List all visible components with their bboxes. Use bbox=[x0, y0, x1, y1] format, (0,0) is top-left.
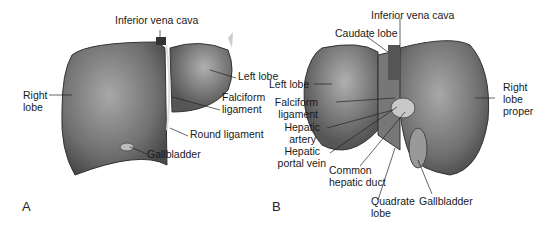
label-b-gallbladder: Gallbladder bbox=[419, 195, 473, 207]
label-b-portal-vein-line1: Hepatic bbox=[270, 145, 320, 157]
label-b-quadrate-lobe-line2: lobe bbox=[371, 207, 391, 219]
panel-b-letter: B bbox=[272, 199, 281, 214]
label-a-right-lobe-line2: lobe bbox=[23, 101, 43, 113]
label-a-round-ligament: Round ligament bbox=[190, 128, 264, 140]
label-b-falciform-line2: ligament bbox=[270, 108, 318, 120]
label-b-quadrate-lobe-line1: Quadrate bbox=[371, 195, 415, 207]
label-a-falciform-line1: Falciform bbox=[222, 91, 265, 103]
label-b-right-lobe-line1: Right bbox=[503, 81, 528, 93]
label-b-hepatic-artery-line2: artery bbox=[270, 133, 316, 145]
label-b-hepatic-artery-line1: Hepatic bbox=[270, 121, 320, 133]
label-b-portal-vein-line2: portal vein bbox=[270, 157, 326, 169]
label-b-falciform-line1: Falciform bbox=[270, 96, 318, 108]
label-a-gallbladder: Gallbladder bbox=[147, 148, 201, 160]
label-b-common-hepatic-duct-line1: Common bbox=[329, 164, 372, 176]
label-b-common-hepatic-duct-line2: hepatic duct bbox=[329, 176, 386, 188]
label-b-right-lobe-line2: lobe bbox=[503, 93, 523, 105]
label-b-caudate-lobe: Caudate lobe bbox=[335, 27, 397, 39]
label-b-left-lobe: Left lobe bbox=[269, 78, 309, 90]
label-a-inferior-vena-cava: Inferior vena cava bbox=[115, 14, 198, 26]
label-b-right-lobe-line3: proper bbox=[503, 105, 533, 117]
label-a-falciform-line2: ligament bbox=[222, 103, 262, 115]
label-a-right-lobe-line1: Right bbox=[23, 89, 48, 101]
panel-a-letter: A bbox=[22, 199, 31, 214]
label-b-inferior-vena-cava: Inferior vena cava bbox=[371, 9, 454, 21]
